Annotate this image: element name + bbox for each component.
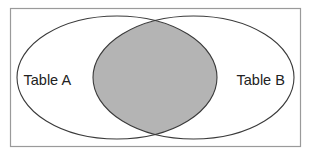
venn-diagram: Table A Table B — [0, 0, 309, 157]
set-b-label: Table B — [237, 72, 285, 88]
set-a-label: Table A — [24, 72, 72, 88]
